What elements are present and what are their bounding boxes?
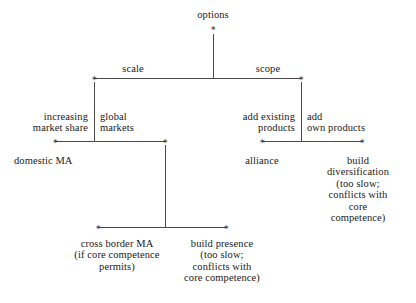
edge-label-scope: scope bbox=[256, 63, 280, 74]
edge-label-increasing-market-share: increasing market share bbox=[33, 111, 88, 134]
leaf-build-diversification: build diversification (too slow; conflic… bbox=[327, 155, 389, 223]
node-marker-cross-border-ma: ∗ bbox=[95, 223, 101, 232]
node-marker-domestic-ma: ∗ bbox=[52, 137, 58, 146]
root-node-marker: ∗ bbox=[210, 24, 216, 33]
scope-drop-connector bbox=[301, 82, 302, 141]
edge-label-add-own-products: add own products bbox=[307, 111, 365, 134]
leaf-cross-border-ma: cross border MA (if core competence perm… bbox=[74, 238, 159, 272]
leaf-alliance: alliance bbox=[245, 155, 278, 166]
scale-drop-connector bbox=[94, 82, 95, 141]
leaf-build-presence: build presence (too slow; conflicts with… bbox=[184, 238, 260, 284]
global-markets-children-bar bbox=[98, 227, 226, 228]
leaf-domestic-ma: domestic MA bbox=[14, 155, 73, 166]
global-markets-drop-connector bbox=[165, 145, 166, 227]
root-stem-connector bbox=[213, 34, 214, 79]
decision-tree-diagram: options ∗ ∗ ∗ scale scope increasing mar… bbox=[0, 0, 416, 303]
scale-children-bar bbox=[55, 141, 165, 142]
node-marker-build-diversification: ∗ bbox=[359, 137, 365, 146]
node-marker-alliance: ∗ bbox=[259, 137, 265, 146]
edge-label-scale: scale bbox=[122, 63, 144, 74]
root-label-options: options bbox=[197, 9, 229, 20]
level1-branch-bar bbox=[94, 78, 301, 79]
edge-label-add-existing-products: add existing products bbox=[243, 111, 295, 134]
node-marker-build-presence: ∗ bbox=[223, 223, 229, 232]
scope-children-bar bbox=[262, 141, 362, 142]
edge-label-global-markets: global markets bbox=[100, 111, 134, 134]
